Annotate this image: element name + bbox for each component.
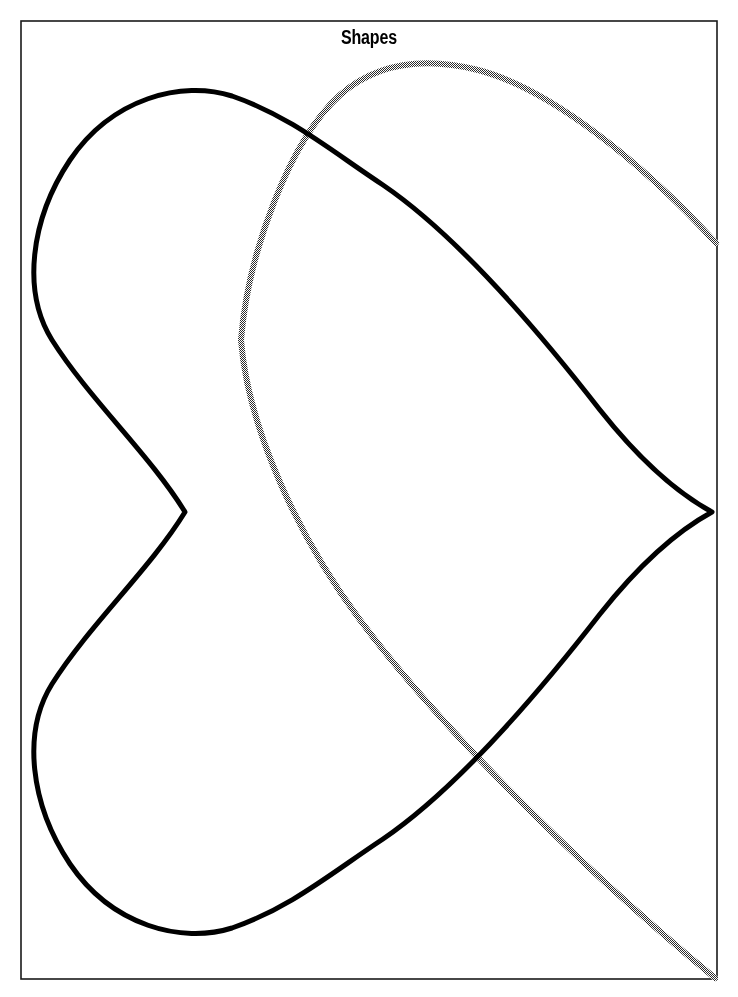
shapes-drawing (0, 0, 738, 997)
shapes-figure-canvas: Shapes (0, 0, 738, 997)
